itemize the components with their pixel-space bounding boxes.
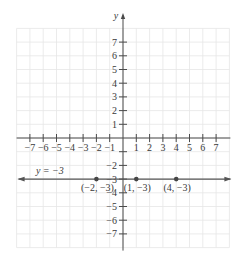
x-tick-label: 3 — [160, 142, 165, 153]
right-arrow-icon — [224, 177, 231, 182]
y-tick-label: 2 — [112, 105, 117, 116]
axes: y — [17, 10, 231, 251]
y-tick-label: 7 — [112, 37, 117, 48]
y-tick-label: 4 — [112, 78, 117, 89]
y-tick-label: −2 — [106, 160, 117, 171]
x-tick-label: 7 — [214, 142, 219, 153]
x-tick-label: −7 — [25, 142, 36, 153]
y-tick-label: −5 — [106, 201, 117, 212]
x-tick-label: −5 — [51, 142, 62, 153]
y-axis-label: y — [113, 10, 119, 21]
annotations: y = −3 — [35, 165, 64, 176]
x-tick-label: −1 — [104, 142, 115, 153]
y-axis-arrow-icon — [121, 13, 125, 19]
y-tick-label: 3 — [112, 91, 117, 102]
x-tick-label: 6 — [200, 142, 205, 153]
y-tick-label: −6 — [106, 215, 117, 226]
data-point-label: (1, −3) — [124, 182, 151, 194]
left-arrow-icon — [18, 177, 25, 182]
data-point — [94, 177, 99, 182]
y-tick-label: 5 — [112, 64, 117, 75]
x-tick-label: 5 — [187, 142, 192, 153]
data-points: (−2, −3)(1, −3)(4, −3) — [81, 177, 191, 194]
data-point — [174, 177, 179, 182]
x-tick-label: 1 — [134, 142, 139, 153]
x-tick-label: 2 — [147, 142, 152, 153]
y-tick-label: 6 — [112, 50, 117, 61]
x-tick-label: −3 — [78, 142, 89, 153]
y-tick-label: −7 — [106, 228, 117, 239]
plot-area: y −7−6−5−4−3−2−112345677654321−2−3−4−5−6… — [0, 0, 243, 256]
data-point-label: (4, −3) — [164, 182, 191, 194]
coordinate-plane-chart: y −7−6−5−4−3−2−112345677654321−2−3−4−5−6… — [0, 0, 243, 256]
x-tick-label: −4 — [64, 142, 75, 153]
y-tick-label: 1 — [112, 119, 117, 130]
data-point-label: (−2, −3) — [81, 182, 114, 194]
x-tick-label: −2 — [91, 142, 102, 153]
x-tick-label: 4 — [174, 142, 179, 153]
equation-label: y = −3 — [35, 165, 64, 176]
data-point — [134, 177, 139, 182]
series-lines — [18, 177, 232, 182]
x-tick-label: −6 — [38, 142, 49, 153]
